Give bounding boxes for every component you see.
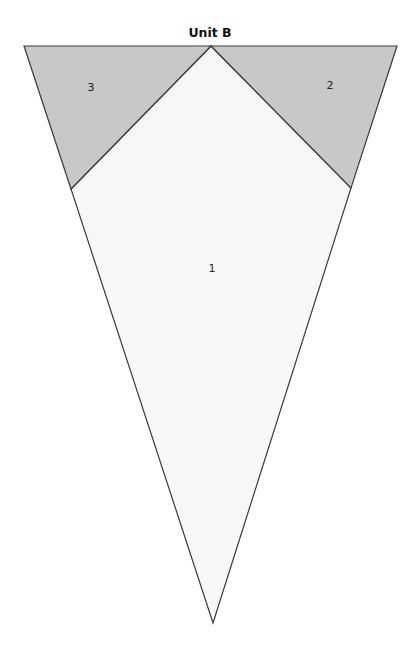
piece-3-label: 3: [88, 81, 95, 94]
foundation-pattern: 1 2 3: [0, 0, 420, 659]
piece-2-label: 2: [327, 79, 334, 92]
piece-1-label: 1: [209, 262, 216, 275]
